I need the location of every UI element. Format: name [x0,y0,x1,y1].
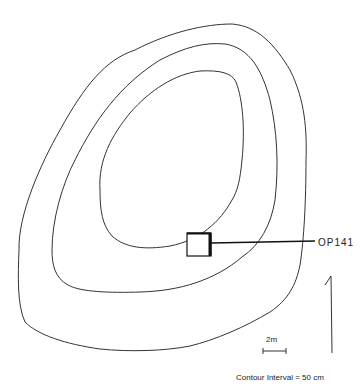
contour-map [0,0,361,387]
leader-line [211,241,315,243]
operation-unit-op141 [187,233,315,256]
scale-label: 2m [266,335,277,344]
scale-bar [263,348,286,354]
operation-label: OP141 [318,237,354,248]
excavation-unit-box [187,233,211,256]
contour-inner [100,71,244,248]
contour-outer [18,24,306,351]
contour-interval-label: Contour Interval = 50 cm [236,373,324,382]
north-arrow-head [325,276,331,285]
north-arrow-shaft [331,276,332,353]
contour-middle [52,44,277,293]
north-arrow [325,276,332,353]
